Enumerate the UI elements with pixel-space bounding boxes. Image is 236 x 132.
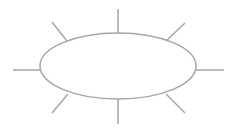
ray-top-right [166,23,185,41]
ray-bottom-left [52,94,68,113]
ray-top-left [52,22,67,41]
sun-diagram [0,0,236,132]
ellipse-shape [40,33,196,99]
ray-bottom-right [166,94,185,113]
